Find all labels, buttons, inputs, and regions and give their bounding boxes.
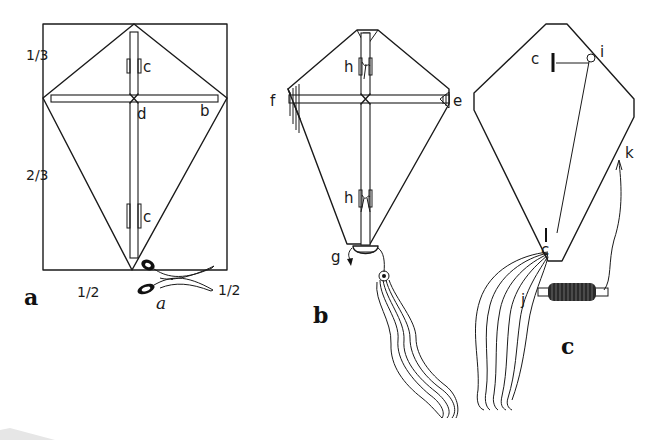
fraction-top-label: 1/3 (26, 47, 49, 63)
flying-line-label: k (625, 144, 634, 162)
horizontal-spar-b (289, 95, 449, 103)
arrow-down-icon (347, 258, 353, 266)
bottom-string (349, 248, 352, 259)
scissors-icon (136, 258, 214, 297)
tail-ring-dot (382, 274, 386, 278)
bridle-ring-label: i (600, 43, 604, 61)
right-wing-label: e (453, 92, 462, 110)
panel-a-label: a (24, 284, 38, 310)
tie-top-label: h (344, 58, 354, 76)
left-wing-label: f (270, 92, 276, 110)
clip-top-right (138, 59, 141, 73)
tail-streamers-b (377, 280, 458, 418)
page-shadow (0, 428, 55, 440)
crossbar-label: b (200, 102, 210, 120)
bottom-label: g (331, 248, 341, 266)
clip-top-label: c (143, 58, 151, 76)
clip-bottom-left (127, 204, 130, 228)
fraction-bottom-label: 2/3 (26, 167, 49, 183)
tail-label: j (520, 291, 525, 309)
panel-b: f e h h g b (270, 30, 462, 418)
tail-streamers-c (475, 252, 548, 410)
tie-bottom-label: h (344, 189, 354, 207)
flying-line (604, 162, 621, 290)
kite-diagram: 1/3 2/3 c c d b 1/2 1/2 a a (0, 0, 655, 440)
panel-a: 1/3 2/3 c c d b 1/2 1/2 a a (24, 24, 241, 313)
clip-top-left (127, 59, 130, 73)
cross-label: d (137, 105, 147, 123)
clip-bottom-label: c (143, 208, 151, 226)
bridle-ring-icon (587, 54, 595, 62)
scissors-label: a (156, 293, 166, 313)
bottom-label-c: c (541, 241, 549, 259)
fraction-base-right: 1/2 (218, 282, 241, 298)
clip-bottom-right (138, 204, 141, 228)
bridle-top-label: c (531, 50, 539, 68)
tail-string (378, 248, 384, 272)
bridle-line (557, 62, 589, 233)
panel-b-label: b (313, 302, 328, 328)
string-reel-icon (538, 283, 608, 301)
panel-c-label: c (561, 333, 574, 359)
panel-c: c i k c j c (474, 24, 634, 410)
left-wing-fold (288, 84, 300, 133)
fraction-base-left: 1/2 (77, 284, 100, 300)
vertical-spar (130, 32, 138, 258)
